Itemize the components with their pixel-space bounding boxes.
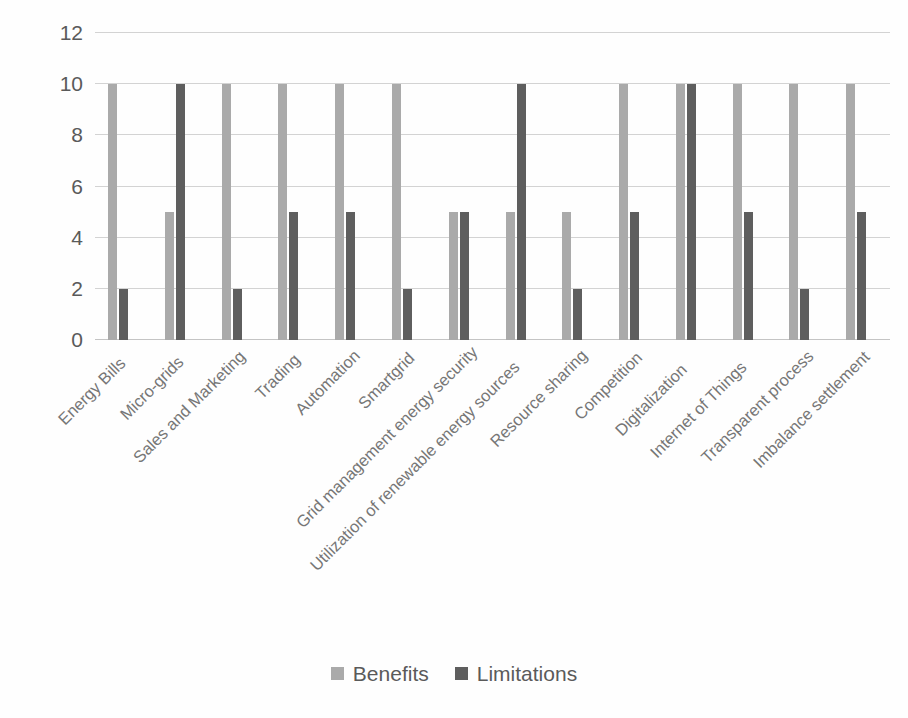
bar-limitations[interactable]: [119, 289, 128, 340]
bar-limitations[interactable]: [573, 289, 582, 340]
y-axis-labels: 121086420: [33, 33, 83, 340]
bar-benefits[interactable]: [789, 84, 798, 340]
bar-group: [108, 33, 152, 340]
y-tick-label-2: 2: [39, 278, 83, 299]
bar-group: [733, 33, 777, 340]
y-tick-label-8: 8: [39, 124, 83, 145]
bar-limitations[interactable]: [176, 84, 185, 340]
chart-legend: BenefitsLimitations: [0, 663, 908, 684]
bar-benefits[interactable]: [619, 84, 628, 340]
bar-limitations[interactable]: [630, 212, 639, 340]
bar-limitations[interactable]: [687, 84, 696, 340]
bar-benefits[interactable]: [278, 84, 287, 340]
legend-label: Benefits: [353, 663, 429, 684]
legend-swatch-icon: [331, 667, 344, 680]
bar-group: [278, 33, 322, 340]
bar-limitations[interactable]: [233, 289, 242, 340]
bar-benefits[interactable]: [733, 84, 742, 340]
bar-benefits[interactable]: [335, 84, 344, 340]
x-category-label: Energy Bills: [55, 355, 128, 428]
bar-benefits[interactable]: [846, 84, 855, 340]
bar-limitations[interactable]: [289, 212, 298, 340]
y-tick-label-0: 0: [39, 329, 83, 350]
bar-group: [449, 33, 493, 340]
x-category-label: Imbalance settlement: [750, 349, 873, 472]
legend-item-limitations[interactable]: Limitations: [455, 663, 577, 684]
bar-benefits[interactable]: [222, 84, 231, 340]
bar-benefits[interactable]: [392, 84, 401, 340]
y-tick-label-12: 12: [39, 22, 83, 43]
x-category-label: Sales and Marketing: [130, 348, 248, 466]
bar-group: [676, 33, 720, 340]
bar-group: [392, 33, 436, 340]
bar-group: [506, 33, 550, 340]
x-category-label: Transparent process: [698, 348, 816, 466]
bar-benefits[interactable]: [165, 212, 174, 340]
bar-group: [619, 33, 663, 340]
x-category-label: Trading: [252, 350, 303, 401]
bar-chart: 121086420 Energy BillsMicro-gridsSales a…: [0, 0, 908, 718]
bar-limitations[interactable]: [346, 212, 355, 340]
bar-group: [846, 33, 890, 340]
bar-benefits[interactable]: [676, 84, 685, 340]
bar-limitations[interactable]: [744, 212, 753, 340]
plot-area: [95, 33, 890, 340]
y-tick-label-10: 10: [39, 73, 83, 94]
y-tick-label-4: 4: [39, 227, 83, 248]
bar-group: [562, 33, 606, 340]
legend-swatch-icon: [455, 667, 468, 680]
bar-limitations[interactable]: [517, 84, 526, 340]
bar-limitations[interactable]: [403, 289, 412, 340]
bar-group: [165, 33, 209, 340]
bar-group: [789, 33, 833, 340]
legend-label: Limitations: [477, 663, 577, 684]
x-category-label: Resource sharing: [487, 347, 590, 450]
y-tick-label-6: 6: [39, 176, 83, 197]
bars-layer: [95, 33, 890, 340]
bar-group: [335, 33, 379, 340]
bar-benefits[interactable]: [506, 212, 515, 340]
bar-benefits[interactable]: [449, 212, 458, 340]
bar-limitations[interactable]: [857, 212, 866, 340]
bar-limitations[interactable]: [800, 289, 809, 340]
bar-group: [222, 33, 266, 340]
x-category-label: Utilization of renewable energy sources: [307, 358, 522, 573]
bar-benefits[interactable]: [562, 212, 571, 340]
x-category-label: Automation: [292, 347, 363, 418]
bar-benefits[interactable]: [108, 84, 117, 340]
bar-limitations[interactable]: [460, 212, 469, 340]
legend-item-benefits[interactable]: Benefits: [331, 663, 429, 684]
